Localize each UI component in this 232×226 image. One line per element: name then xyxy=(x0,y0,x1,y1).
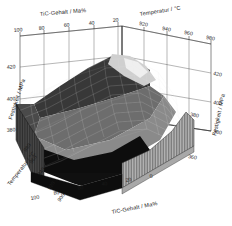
tick-label: 940 xyxy=(162,25,172,32)
tick-label: 420 xyxy=(6,63,15,70)
tick-label: 100 xyxy=(13,26,22,33)
tick-label: 40 xyxy=(88,19,94,26)
bottom-axis-title: TiC-Gehalt / Ma% xyxy=(111,200,158,215)
tick-label: 100 xyxy=(30,193,40,201)
tick-label: 400 xyxy=(6,95,15,102)
plot-canvas: TiC-Gehalt / Ma% Temperatur / °C Festigk… xyxy=(0,0,232,226)
tick-label: 980 xyxy=(206,34,216,41)
surface-plot-figure: TiC-Gehalt / Ma% Temperatur / °C Festigk… xyxy=(0,0,232,226)
tick-label: 60 xyxy=(63,21,69,28)
top-left-axis-title: TiC-Gehalt / Ma% xyxy=(40,7,87,17)
tick-label: 920 xyxy=(139,20,149,27)
tick-label: 20 xyxy=(112,16,118,23)
tick-label: 400 xyxy=(213,99,223,106)
tick-label: 80 xyxy=(38,24,44,31)
tick-label: 420 xyxy=(213,70,223,77)
tick-label: 960 xyxy=(184,29,194,36)
top-right-axis-title: Temperatur / °C xyxy=(139,5,181,17)
tick-labels-top-y: 920 940 960 980 xyxy=(139,20,216,41)
tick-labels-left-z: 420 400 380 xyxy=(6,63,15,133)
tick-label: 380 xyxy=(6,126,15,133)
tick-labels-top-x: 100 80 60 40 20 xyxy=(13,16,118,33)
tick-label: 360 xyxy=(188,153,198,160)
